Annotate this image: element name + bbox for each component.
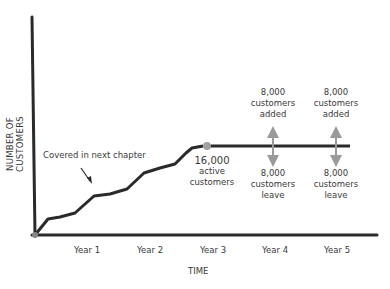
origin-marker bbox=[32, 232, 38, 238]
tick-year5: Year 5 bbox=[312, 245, 362, 255]
note-label: Covered in next chapter bbox=[43, 150, 146, 161]
y-axis bbox=[32, 17, 35, 236]
y-axis-label: NUMBER OF CUSTOMERS bbox=[5, 89, 25, 199]
year4-added-label: 8,000customersadded bbox=[248, 87, 298, 120]
tick-year2: Year 2 bbox=[125, 245, 175, 255]
tick-year3: Year 3 bbox=[188, 245, 238, 255]
year5-added-label: 8,000customersadded bbox=[311, 87, 361, 120]
tick-year4: Year 4 bbox=[250, 245, 300, 255]
tick-year1: Year 1 bbox=[62, 245, 112, 255]
active-customers-label: 16,000 active customers bbox=[187, 155, 237, 188]
year4-leave-label: 8,000customersleave bbox=[248, 168, 298, 201]
x-axis-label: TIME bbox=[188, 266, 208, 276]
year3-marker bbox=[203, 142, 211, 150]
year5-leave-label: 8,000customersleave bbox=[311, 168, 361, 201]
